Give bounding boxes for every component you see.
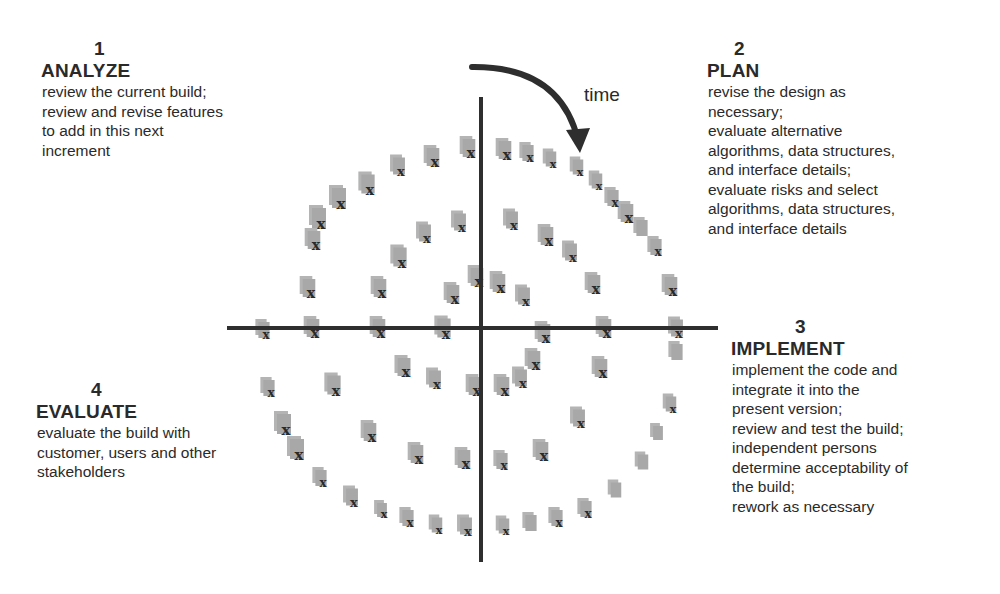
svg-text:x: x xyxy=(596,180,603,193)
document-icon: x xyxy=(451,211,466,235)
svg-text:x: x xyxy=(584,507,592,521)
document-icon: x xyxy=(329,185,347,213)
spiral-diagram: xxxxxxxxxxxxxxxxxxxxxxxxxxxxxxxxxxxxxxxx… xyxy=(0,0,1000,594)
svg-text:x: x xyxy=(532,357,541,373)
svg-text:x: x xyxy=(500,459,508,473)
document-icon: x xyxy=(416,222,431,246)
document-icon: x xyxy=(390,155,405,179)
document-icon: x xyxy=(618,201,634,226)
document-icon: x xyxy=(324,373,340,399)
svg-text:x: x xyxy=(577,416,585,431)
document-icon: x xyxy=(444,282,460,307)
svg-text:x: x xyxy=(519,376,527,391)
document-icon: x xyxy=(455,447,471,472)
svg-text:x: x xyxy=(540,448,549,464)
document-icon: x xyxy=(312,467,327,490)
document-icon: x xyxy=(604,187,619,210)
svg-text:x: x xyxy=(451,291,460,307)
svg-text:x: x xyxy=(464,524,472,539)
svg-text:x: x xyxy=(398,255,407,271)
document-icon: x xyxy=(457,515,472,539)
document-icon: x xyxy=(577,498,592,521)
svg-text:x: x xyxy=(611,196,619,210)
time-arrow-icon xyxy=(472,67,590,153)
document-icon: x xyxy=(525,348,541,373)
svg-text:x: x xyxy=(458,220,466,235)
svg-text:x: x xyxy=(592,281,601,297)
document-icon: x xyxy=(512,367,527,391)
document-icon: x xyxy=(519,142,534,165)
svg-text:x: x xyxy=(366,182,375,198)
svg-text:x: x xyxy=(670,403,677,416)
document-icon xyxy=(522,512,536,531)
document-icon xyxy=(650,423,663,440)
document-icon: x xyxy=(548,507,563,530)
svg-text:x: x xyxy=(550,158,557,171)
svg-text:x: x xyxy=(312,237,321,253)
svg-text:x: x xyxy=(423,231,431,246)
svg-text:x: x xyxy=(402,364,411,380)
document-icon: x xyxy=(426,368,441,392)
svg-text:x: x xyxy=(545,233,554,249)
svg-text:x: x xyxy=(501,383,510,399)
svg-text:x: x xyxy=(436,524,443,537)
svg-text:x: x xyxy=(522,294,530,309)
document-icon: x xyxy=(662,274,678,299)
svg-text:x: x xyxy=(431,154,440,170)
document-icon: x xyxy=(562,241,577,265)
svg-text:x: x xyxy=(332,383,341,399)
document-icon: x xyxy=(300,276,316,301)
document-icon: x xyxy=(395,355,411,380)
svg-text:x: x xyxy=(669,283,678,299)
document-icon: x xyxy=(543,149,557,171)
svg-text:x: x xyxy=(397,164,405,179)
document-icon: x xyxy=(570,157,584,179)
document-icon: x xyxy=(535,321,551,346)
document-icon: x xyxy=(343,486,358,510)
svg-text:x: x xyxy=(467,145,476,161)
document-icon: x xyxy=(429,515,443,537)
document-icon: x xyxy=(371,276,387,301)
document-icon: x xyxy=(424,145,440,170)
svg-text:x: x xyxy=(295,446,305,464)
svg-text:x: x xyxy=(569,250,577,265)
svg-text:x: x xyxy=(599,365,608,381)
document-icon: x xyxy=(496,138,512,163)
increment-markers: xxxxxxxxxxxxxxxxxxxxxxxxxxxxxxxxxxxxxxxx… xyxy=(255,136,683,539)
document-icon: x xyxy=(515,285,530,309)
document-icon: x xyxy=(493,450,508,473)
document-icon: x xyxy=(490,271,506,296)
document-icon xyxy=(668,341,682,360)
svg-text:x: x xyxy=(503,147,512,163)
document-icon xyxy=(633,217,647,236)
svg-text:x: x xyxy=(319,476,327,490)
svg-text:x: x xyxy=(317,215,327,233)
svg-text:x: x xyxy=(625,210,634,226)
svg-text:x: x xyxy=(415,451,424,467)
svg-text:x: x xyxy=(462,456,471,472)
svg-text:x: x xyxy=(503,525,510,538)
document-icon: x xyxy=(399,507,414,530)
document-icon: x xyxy=(494,374,510,399)
document-icon xyxy=(635,452,649,470)
document-icon: x xyxy=(305,228,321,253)
document-icon: x xyxy=(408,442,424,467)
svg-text:x: x xyxy=(381,508,388,521)
document-icon: x xyxy=(361,420,377,445)
document-icon: x xyxy=(585,272,601,297)
svg-text:x: x xyxy=(497,280,506,296)
svg-text:x: x xyxy=(542,330,551,346)
document-icon: x xyxy=(358,172,374,198)
document-icon: x xyxy=(592,356,608,381)
document-icon xyxy=(608,480,622,498)
document-icon: x xyxy=(287,436,305,464)
svg-text:x: x xyxy=(526,151,534,165)
document-icon: x xyxy=(255,319,270,342)
document-icon: x xyxy=(496,516,510,538)
svg-text:x: x xyxy=(350,495,358,510)
document-icon: x xyxy=(374,500,388,521)
document-icon: x xyxy=(589,171,603,193)
document-icon: x xyxy=(663,394,677,416)
svg-text:x: x xyxy=(555,516,563,530)
document-icon: x xyxy=(460,136,476,161)
